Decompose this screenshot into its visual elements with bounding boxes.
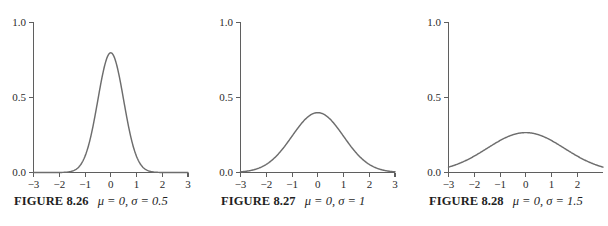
y-tick-label-2-1: 0.5 — [219, 91, 233, 103]
y-ticks-1 — [29, 23, 34, 173]
y-tick-label-3-0: 0.0 — [427, 166, 441, 178]
x-tick-label-3-4: 1 — [549, 178, 555, 190]
figure-caption-params-8-26: μ = 0, σ = 0.5 — [98, 194, 168, 208]
normal-curve-chart-1: 0.0 0.5 1.0 −3 −2 −1 0 1 2 3 — [0, 0, 200, 190]
x-tick-label-1-1: −2 — [53, 178, 65, 190]
x-ticks-3 — [449, 173, 578, 178]
y-tick-label-1-1: 0.5 — [12, 91, 26, 103]
x-tick-label-1-2: −1 — [79, 178, 91, 190]
normal-pdf-curve-sigma-1 — [241, 113, 396, 172]
y-tick-label-3-2: 1.0 — [427, 16, 441, 28]
x-tick-label-1-3: 0 — [108, 178, 114, 190]
figure-panel-8-26: 0.0 0.5 1.0 −3 −2 −1 0 1 2 3 FIGURE 8.26… — [0, 0, 200, 226]
plot-area-8-27: 0.0 0.5 1.0 −3 −2 −1 0 1 2 3 — [207, 0, 407, 190]
y-tick-label-3-1: 0.5 — [427, 91, 441, 103]
figure-caption-label-8-26: FIGURE 8.26 — [14, 194, 89, 208]
x-tick-label-2-4: 1 — [341, 178, 347, 190]
figure-caption-label-8-27: FIGURE 8.27 — [221, 194, 296, 208]
x-tick-label-3-3: 0 — [523, 178, 529, 190]
figure-panel-8-28: 0.0 0.5 1.0 −3 −2 −1 0 1 2 FIGURE 8.28μ … — [415, 0, 608, 226]
normal-pdf-curve-sigma-0-5 — [34, 53, 189, 173]
y-tick-label-2-2: 1.0 — [219, 16, 233, 28]
figure-caption-8-27: FIGURE 8.27μ = 0, σ = 1 — [221, 195, 365, 208]
y-tick-label-1-2: 1.0 — [12, 16, 26, 28]
x-tick-label-3-2: −1 — [494, 178, 506, 190]
x-tick-label-2-0: −3 — [235, 178, 247, 190]
y-tick-label-2-0: 0.0 — [219, 166, 233, 178]
figure-caption-params-8-27: μ = 0, σ = 1 — [305, 194, 366, 208]
x-tick-label-1-5: 2 — [160, 178, 166, 190]
x-tick-label-1-0: −3 — [28, 178, 40, 190]
normal-curve-chart-2: 0.0 0.5 1.0 −3 −2 −1 0 1 2 3 — [207, 0, 407, 190]
x-tick-label-3-5: 2 — [575, 178, 581, 190]
normal-curve-chart-3: 0.0 0.5 1.0 −3 −2 −1 0 1 2 — [415, 0, 608, 190]
normal-pdf-curve-sigma-1-5 — [449, 133, 604, 167]
y-ticks-3 — [444, 23, 449, 173]
figure-panel-8-27: 0.0 0.5 1.0 −3 −2 −1 0 1 2 3 FIGURE 8.27… — [207, 0, 407, 226]
figure-caption-label-8-28: FIGURE 8.28 — [429, 194, 504, 208]
y-ticks-2 — [236, 23, 241, 173]
x-tick-label-2-5: 2 — [367, 178, 373, 190]
x-tick-label-1-6: 3 — [185, 178, 191, 190]
figure-caption-8-28: FIGURE 8.28μ = 0, σ = 1.5 — [429, 195, 583, 208]
y-tick-label-1-0: 0.0 — [12, 166, 26, 178]
plot-area-8-26: 0.0 0.5 1.0 −3 −2 −1 0 1 2 3 — [0, 0, 200, 190]
plot-area-8-28: 0.0 0.5 1.0 −3 −2 −1 0 1 2 — [415, 0, 608, 190]
x-tick-label-2-6: 3 — [392, 178, 398, 190]
figure-caption-8-26: FIGURE 8.26μ = 0, σ = 0.5 — [14, 195, 168, 208]
x-tick-label-2-3: 0 — [315, 178, 321, 190]
x-tick-label-2-1: −2 — [260, 178, 272, 190]
x-tick-label-1-4: 1 — [134, 178, 140, 190]
x-tick-label-3-1: −2 — [468, 178, 480, 190]
x-tick-label-2-2: −1 — [286, 178, 298, 190]
x-ticks-2 — [241, 173, 396, 178]
x-tick-label-3-0: −3 — [443, 178, 455, 190]
figure-caption-params-8-28: μ = 0, σ = 1.5 — [513, 194, 583, 208]
